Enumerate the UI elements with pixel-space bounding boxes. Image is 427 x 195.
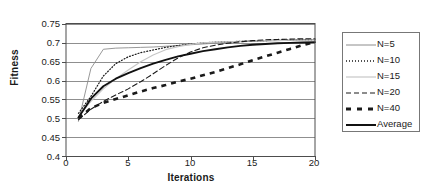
legend-swatch-n10 xyxy=(345,53,377,65)
legend-item-n10[interactable]: N=10 xyxy=(345,51,419,67)
legend-swatch-n20 xyxy=(345,85,377,97)
legend-swatch-average xyxy=(345,117,377,129)
legend-label-n10: N=10 xyxy=(377,54,417,65)
legend-label-average: Average xyxy=(377,118,417,129)
legend-label-n5: N=5 xyxy=(377,38,417,49)
data-curves xyxy=(78,39,315,122)
legend-item-average[interactable]: Average xyxy=(345,115,419,131)
legend-swatch-n5 xyxy=(345,37,377,49)
legend-swatch-n40 xyxy=(345,101,377,113)
legend-item-n40[interactable]: N=40 xyxy=(345,99,419,115)
legend: N=5 N=10 N=15 N=20 N=40 xyxy=(342,32,420,132)
legend-label-n15: N=15 xyxy=(377,70,417,81)
legend-item-n5[interactable]: N=5 xyxy=(345,35,419,51)
fitness-vs-iterations-chart: Fitness Iterations 0.75 0.7 0.65 0.6 0.5… xyxy=(0,0,427,195)
legend-label-n20: N=20 xyxy=(377,86,417,97)
legend-label-n40: N=40 xyxy=(377,102,417,113)
legend-item-n20[interactable]: N=20 xyxy=(345,83,419,99)
legend-swatch-n15 xyxy=(345,69,377,81)
legend-item-n15[interactable]: N=15 xyxy=(345,67,419,83)
